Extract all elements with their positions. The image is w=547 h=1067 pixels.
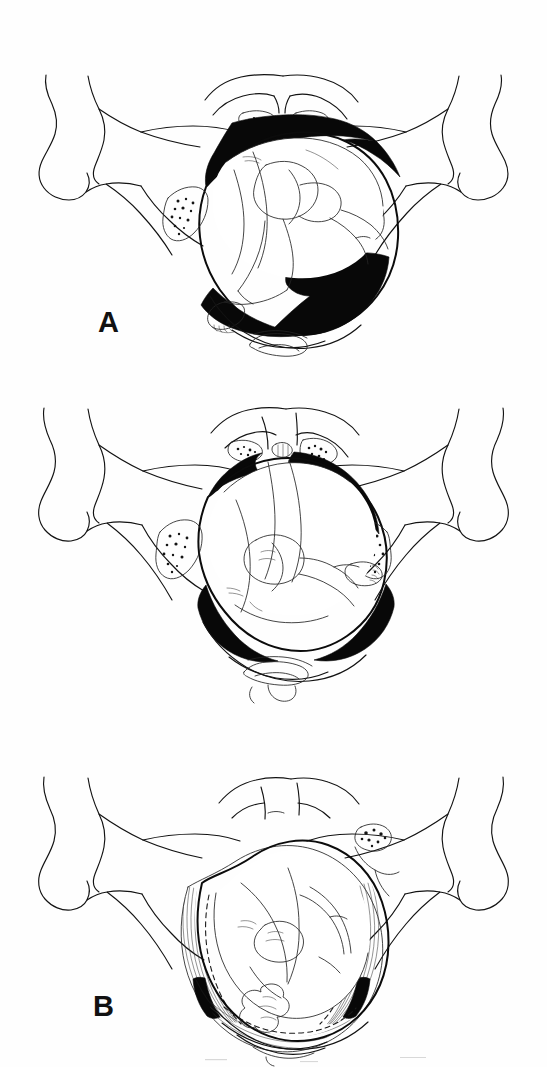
figure-root: A — [0, 0, 547, 1067]
panel-c-drawing — [0, 735, 547, 1067]
left-sacroiliac-joint — [156, 520, 202, 579]
panel-a: A — [0, 0, 547, 365]
left-ilium — [39, 408, 240, 600]
fetus — [214, 850, 370, 1018]
panel-a-drawing — [0, 0, 547, 365]
panel-c: C — [0, 735, 547, 1067]
panel-label-a: A — [98, 308, 119, 337]
symphysis-pubis — [211, 408, 359, 465]
scan-artefacts — [205, 1057, 426, 1062]
symphysis-pubis — [219, 778, 359, 819]
left-sacroiliac-joint — [163, 187, 208, 241]
left-ilium — [39, 777, 240, 969]
panel-b: B — [0, 360, 547, 730]
panel-b-drawing — [0, 360, 547, 730]
fetal-toes — [370, 565, 379, 583]
